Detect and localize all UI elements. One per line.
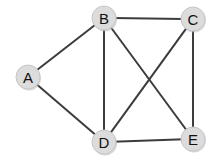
graph-edge-a-d (35, 83, 97, 136)
graph-node-c[interactable]: C (181, 7, 206, 33)
graph-node-d[interactable]: D (92, 130, 117, 156)
node-label-d: D (99, 134, 110, 151)
node-label-a: A (23, 69, 33, 86)
graph-node-b[interactable]: B (92, 6, 117, 32)
edge-layer (35, 18, 193, 142)
graph-node-e[interactable]: E (181, 127, 206, 153)
graph-edge-d-e (113, 139, 184, 141)
graph-diagram: ABCDE (0, 0, 219, 164)
node-label-b: B (99, 10, 109, 27)
graph-node-a[interactable]: A (16, 65, 41, 91)
graph-edge-a-b (35, 24, 97, 72)
node-label-e: E (188, 131, 198, 148)
node-layer: ABCDE (16, 6, 206, 156)
graph-edge-b-c (113, 18, 184, 19)
graph-svg-canvas: ABCDE (0, 0, 219, 164)
node-label-c: C (188, 11, 199, 28)
